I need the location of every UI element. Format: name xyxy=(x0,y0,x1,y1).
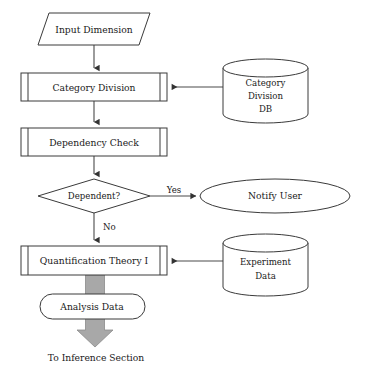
analysis-data-label: Analysis Data xyxy=(59,301,124,312)
node-quantification-theory[interactable]: Quantification Theory I xyxy=(21,246,167,275)
to-inference-section-label: To Inference Section xyxy=(48,352,145,363)
yes-branch-label: Yes xyxy=(166,185,181,195)
node-to-inference-section: To Inference Section xyxy=(48,352,145,363)
notify-user-label: Notify User xyxy=(248,190,303,201)
category-division-db-label-line3: DB xyxy=(259,104,272,114)
node-category-division-db[interactable]: Category Division DB xyxy=(223,59,308,123)
edge-label-yes: Yes xyxy=(166,185,181,195)
edge-label-no: No xyxy=(103,222,116,232)
no-branch-label: No xyxy=(103,222,116,232)
category-division-db-label-line2: Division xyxy=(248,91,284,101)
flowchart-drawing: Input Dimension Category Division Catego… xyxy=(0,0,367,376)
category-division-db-label-line1: Category xyxy=(246,78,286,88)
experiment-data-db-label-line2: Data xyxy=(255,271,276,281)
dependency-check-label: Dependency Check xyxy=(49,137,139,148)
node-input-dimension[interactable]: Input Dimension xyxy=(38,13,150,45)
dependent-decision-label: Dependent? xyxy=(68,191,121,201)
node-dependency-check[interactable]: Dependency Check xyxy=(21,128,167,156)
node-analysis-data[interactable]: Analysis Data xyxy=(40,294,145,319)
flowchart-canvas: Input Dimension Category Division Catego… xyxy=(0,0,367,376)
node-experiment-data-db[interactable]: Experiment Data xyxy=(223,234,308,296)
category-division-label: Category Division xyxy=(52,82,135,93)
node-category-division[interactable]: Category Division xyxy=(21,73,167,101)
node-notify-user[interactable]: Notify User xyxy=(200,179,350,213)
experiment-data-db-label-line1: Experiment xyxy=(240,257,291,267)
node-dependent-decision[interactable]: Dependent? xyxy=(38,179,150,213)
input-dimension-label: Input Dimension xyxy=(55,24,133,35)
quantification-theory-label: Quantification Theory I xyxy=(40,255,149,266)
